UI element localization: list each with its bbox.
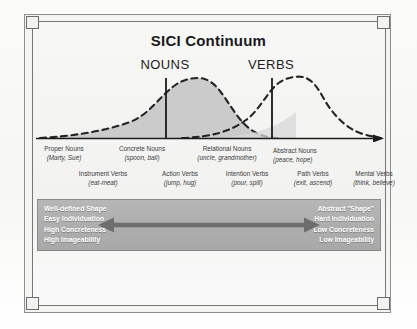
figure-scan: SICI Continuum NOUNS VERBS Proper Nouns …: [0, 0, 417, 329]
category-examples: (peace, hope): [273, 156, 351, 165]
list-item: Abstract Nouns (peace, hope): [273, 147, 351, 164]
figure-title: SICI Continuum: [0, 32, 417, 49]
corner-mark-bottom-right: [377, 297, 390, 310]
category-examples: (Marty, Sue): [26, 154, 102, 163]
category-label: Action Verbs: [162, 170, 198, 177]
corner-mark-top-right: [377, 16, 390, 29]
category-examples: (think, believe): [340, 179, 408, 188]
category-label: Relational Nouns: [203, 145, 252, 152]
list-item: Concrete Nouns (spoon, ball): [103, 145, 181, 162]
axis-arrowhead-icon: [373, 135, 384, 143]
corner-mark-bottom-left: [26, 297, 39, 310]
noun-curve-fill: [40, 78, 278, 138]
comparison-bar: Well-defined Shape Easy Individuation Hi…: [37, 199, 381, 251]
bar-right-line-2: Hard Individuation: [314, 214, 374, 224]
category-label: Intention Verbs: [226, 170, 269, 177]
comparison-bar-right-text: Abstract "Shape" Hard Individuation Low …: [314, 204, 374, 245]
bar-left-line-4: High Imageability: [44, 235, 107, 245]
category-label: Abstract Nouns: [273, 147, 317, 154]
distribution-chart: [32, 72, 384, 142]
list-item: Intention Verbs (pour, spill): [212, 170, 282, 187]
category-label: Concrete Nouns: [119, 145, 165, 152]
verbs-peak-label: VERBS: [216, 57, 326, 72]
category-examples: (spoon, ball): [103, 154, 181, 163]
list-item: Instrument Verbs (eat-meat): [62, 170, 144, 187]
category-examples: (eat-meat): [62, 179, 144, 188]
list-item: Mental Verbs (think, believe): [340, 170, 408, 187]
category-examples: (jump, hug): [148, 179, 212, 188]
category-examples: (pour, spill): [212, 179, 282, 188]
category-label: Instrument Verbs: [79, 170, 127, 177]
nouns-peak-label: NOUNS: [110, 57, 220, 72]
category-examples: (exit, ascend): [282, 179, 344, 188]
category-examples: (uncle, grandmother): [178, 154, 276, 163]
list-item: Proper Nouns (Marty, Sue): [26, 145, 102, 162]
bar-right-line-3: Low Concreteness: [314, 225, 374, 235]
list-item: Action Verbs (jump, hug): [148, 170, 212, 187]
category-label: Mental Verbs: [355, 170, 392, 177]
double-headed-arrow-icon: [98, 214, 320, 236]
bar-right-line-4: Low Imageability: [314, 235, 374, 245]
list-item: Path Verbs (exit, ascend): [282, 170, 344, 187]
list-item: Relational Nouns (uncle, grandmother): [178, 145, 276, 162]
corner-mark-top-left: [26, 16, 39, 29]
category-label: Proper Nouns: [44, 145, 83, 152]
category-label: Path Verbs: [297, 170, 328, 177]
bar-right-line-1: Abstract "Shape": [314, 204, 374, 214]
bar-left-line-1: Well-defined Shape: [44, 204, 107, 214]
